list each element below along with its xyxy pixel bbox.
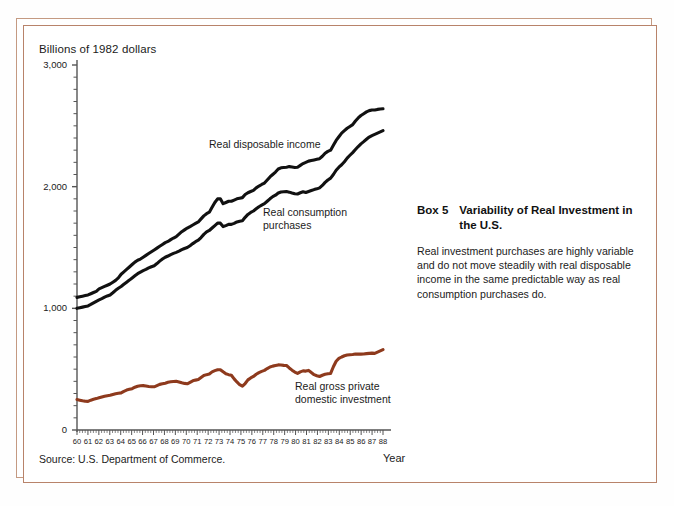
x-tick-label: 88 — [376, 437, 390, 446]
figure-page: Billions of 1982 dollars 01,0002,0003,00… — [0, 0, 674, 506]
series-label-income: Real disposable income — [209, 138, 320, 151]
source-note: Source: U.S. Department of Commerce. — [39, 453, 225, 465]
series-label-consumption: Real consumption purchases — [263, 206, 347, 232]
y-tick-label: 0 — [25, 424, 67, 435]
series-label-investment-line1: Real gross private — [295, 380, 380, 392]
bottom-caption — [120, 494, 540, 506]
box-body: Real investment purchases are highly var… — [417, 244, 645, 301]
box-note-heading: Box 5 Variability of Real Investment in … — [417, 203, 645, 233]
y-tick-label: 1,000 — [25, 302, 67, 313]
series-label-investment-line2: domestic investment — [295, 393, 391, 405]
y-tick-label: 2,000 — [25, 181, 67, 192]
figure-content: Billions of 1982 dollars 01,0002,0003,00… — [23, 25, 657, 483]
box-title: Variability of Real Investment in the U.… — [459, 203, 645, 233]
series-label-investment: Real gross private domestic investment — [295, 380, 391, 406]
y-tick-label: 3,000 — [25, 59, 67, 70]
x-axis-title: Year — [383, 452, 405, 464]
box-note: Box 5 Variability of Real Investment in … — [417, 203, 645, 301]
series-label-consumption-line1: Real consumption — [263, 206, 347, 218]
box-number: Box 5 — [417, 203, 448, 233]
series-label-consumption-line2: purchases — [263, 219, 311, 231]
